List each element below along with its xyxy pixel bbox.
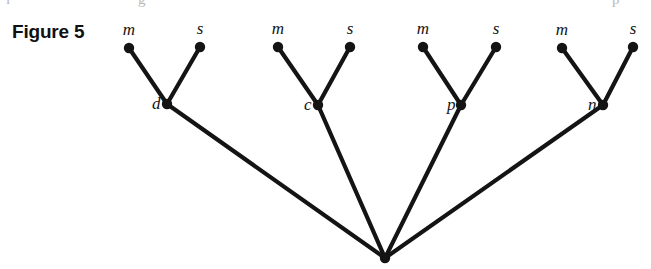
edge-c-m-to-c: [278, 47, 318, 105]
tree-edges: [129, 47, 633, 258]
tree-nodes: [124, 42, 638, 263]
leaf-dot-c-m: [273, 42, 283, 52]
leaf-dot-c-s: [345, 42, 355, 52]
leaf-label-p-m: m: [417, 19, 429, 38]
leaf-dot-n-m: [557, 43, 567, 53]
edge-c-s-to-c: [318, 47, 350, 105]
leaf-dot-d-m: [124, 43, 134, 53]
node-dot-p: [456, 100, 466, 110]
node-dot-c: [313, 100, 323, 110]
node-dot-root: [380, 253, 390, 263]
leaf-label-c-s: s: [347, 19, 354, 38]
leaf-label-d-s: s: [197, 19, 204, 38]
node-label-d: d: [152, 94, 161, 113]
leaf-dot-n-s: [628, 42, 638, 52]
edge-d-m-to-d: [129, 48, 167, 104]
node-dot-n: [598, 100, 608, 110]
node-label-c: c: [304, 95, 312, 114]
tree-diagram: dcpnmsmsmsms: [0, 0, 651, 269]
leaf-label-c-m: m: [272, 19, 284, 38]
edge-n-to-root: [385, 105, 603, 258]
node-label-p: p: [446, 95, 456, 114]
node-dot-d: [162, 99, 172, 109]
tree-labels: dcpnmsmsmsms: [123, 19, 637, 114]
edge-p-to-root: [385, 105, 461, 258]
edge-n-s-to-n: [603, 47, 633, 105]
leaf-dot-d-s: [195, 42, 205, 52]
edge-p-s-to-p: [461, 47, 496, 105]
leaf-dot-p-m: [418, 42, 428, 52]
edge-n-m-to-n: [562, 48, 603, 105]
leaf-label-n-m: m: [556, 20, 568, 39]
figure-container: i g p Figure 5 dcpnmsmsmsms: [0, 0, 651, 269]
node-label-n: n: [588, 95, 597, 114]
edge-d-s-to-d: [167, 47, 200, 104]
leaf-dot-p-s: [491, 42, 501, 52]
leaf-label-p-s: s: [493, 19, 500, 38]
leaf-label-n-s: s: [630, 19, 637, 38]
leaf-label-d-m: m: [123, 20, 135, 39]
